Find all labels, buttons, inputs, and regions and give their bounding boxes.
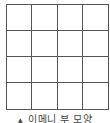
- grid-cell: [32, 57, 57, 83]
- grid-cell: [7, 31, 32, 57]
- grid-cell: [83, 31, 108, 57]
- grid-cell: [7, 57, 32, 83]
- grid-cell: [32, 31, 57, 57]
- grid-cell: [32, 83, 57, 109]
- grid-cell: [58, 31, 83, 57]
- grid-cell: [83, 5, 108, 31]
- grid-cell: [58, 83, 83, 109]
- grid-cell: [7, 5, 32, 31]
- caption-text: 이메니 부 모양: [28, 114, 92, 123]
- grid-cell: [58, 5, 83, 31]
- grid-cell: [83, 57, 108, 83]
- square-grid-diagram: [6, 4, 109, 110]
- grid-cell: [58, 57, 83, 83]
- triangle-up-icon: ▲: [18, 116, 23, 123]
- figure-caption: ▲이메니 부 모양: [18, 114, 92, 123]
- grid-cell: [83, 83, 108, 109]
- grid-cell: [32, 5, 57, 31]
- grid-cell: [7, 83, 32, 109]
